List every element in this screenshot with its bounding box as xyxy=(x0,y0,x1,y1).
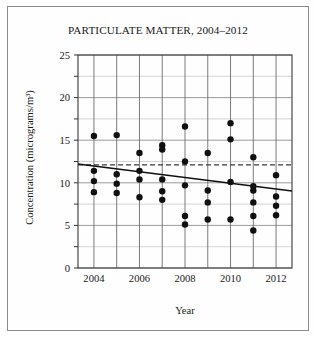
figure-container: PARTICULATE MATTER, 2004–2012 Concentrat… xyxy=(0,0,316,337)
data-point xyxy=(227,136,233,142)
svg-text:10: 10 xyxy=(59,178,70,189)
data-point xyxy=(273,172,279,178)
svg-text:2004: 2004 xyxy=(83,273,105,284)
data-point xyxy=(159,197,165,203)
data-point xyxy=(182,221,188,227)
data-point xyxy=(182,213,188,219)
data-point xyxy=(205,199,211,205)
data-point xyxy=(273,193,279,199)
data-point xyxy=(250,213,256,219)
y-tick-labels: 0510152025 xyxy=(59,50,70,274)
svg-text:2006: 2006 xyxy=(129,273,150,284)
data-point xyxy=(91,178,97,184)
data-point xyxy=(114,171,120,177)
data-point xyxy=(273,212,279,218)
svg-text:20: 20 xyxy=(59,92,70,103)
data-point xyxy=(227,120,233,126)
data-point xyxy=(91,189,97,195)
svg-text:0: 0 xyxy=(65,263,70,274)
data-point xyxy=(136,176,142,182)
data-point xyxy=(182,123,188,129)
data-point xyxy=(227,216,233,222)
data-point xyxy=(273,203,279,209)
data-point xyxy=(114,132,120,138)
scatter-plot: 0510152025 20042006200820102012 xyxy=(0,0,316,337)
data-point xyxy=(250,199,256,205)
data-point xyxy=(136,168,142,174)
svg-text:2012: 2012 xyxy=(265,273,286,284)
data-point xyxy=(182,182,188,188)
svg-text:2010: 2010 xyxy=(220,273,241,284)
data-point xyxy=(159,188,165,194)
svg-text:5: 5 xyxy=(65,220,70,231)
svg-text:2008: 2008 xyxy=(174,273,195,284)
data-point xyxy=(114,190,120,196)
data-point xyxy=(136,150,142,156)
data-point xyxy=(250,187,256,193)
data-point xyxy=(91,168,97,174)
data-point xyxy=(114,180,120,186)
data-point xyxy=(159,176,165,182)
data-point xyxy=(182,158,188,164)
data-point xyxy=(250,227,256,233)
data-point xyxy=(205,150,211,156)
data-point xyxy=(205,216,211,222)
data-point xyxy=(136,194,142,200)
data-point xyxy=(91,133,97,139)
x-tick-labels: 20042006200820102012 xyxy=(83,273,286,284)
data-point xyxy=(159,146,165,152)
data-point xyxy=(250,154,256,160)
data-point xyxy=(205,187,211,193)
data-point xyxy=(227,179,233,185)
svg-text:25: 25 xyxy=(59,50,70,61)
svg-text:15: 15 xyxy=(59,135,70,146)
